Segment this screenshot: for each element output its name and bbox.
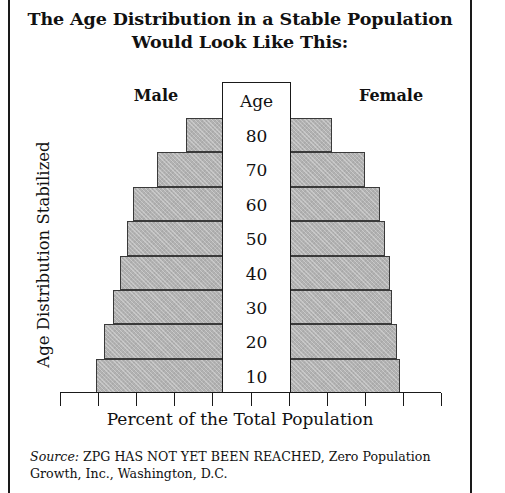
male-bar-age-70 <box>157 152 224 186</box>
age-column-title: Age <box>223 83 290 119</box>
chart-title: The Age Distribution in a Stable Populat… <box>8 8 472 54</box>
x-axis-tick <box>327 393 328 406</box>
x-axis-tick <box>251 393 252 406</box>
female-bar-age-80 <box>289 118 332 152</box>
chart-title-line-2: Would Look Like This: <box>8 31 472 54</box>
male-column-header: Male <box>110 86 202 105</box>
male-bar-age-50 <box>127 221 224 255</box>
age-column: Age 8070605040302010 <box>222 82 291 393</box>
female-bar-age-70 <box>289 152 365 186</box>
x-axis-tick <box>289 393 290 406</box>
age-label-10: 10 <box>223 360 290 394</box>
male-bar-age-40 <box>120 256 224 290</box>
x-axis-tick <box>441 393 442 406</box>
chart-title-line-1: The Age Distribution in a Stable Populat… <box>8 8 472 31</box>
female-bar-age-20 <box>289 324 397 358</box>
male-bar-age-80 <box>186 118 224 152</box>
female-bar-age-30 <box>289 290 392 324</box>
x-axis-tick <box>98 393 99 406</box>
female-bar-age-40 <box>289 256 390 290</box>
source-citation: Source: ZPG HAS NOT YET BEEN REACHED, Ze… <box>30 449 450 482</box>
female-bar-age-10 <box>289 359 400 393</box>
age-label-20: 20 <box>223 325 290 359</box>
x-axis-tick <box>60 393 61 406</box>
age-label-50: 50 <box>223 222 290 256</box>
x-axis-tick <box>136 393 137 406</box>
x-axis-tick <box>403 393 404 406</box>
female-column-header: Female <box>338 86 444 105</box>
age-label-30: 30 <box>223 291 290 325</box>
x-axis-tick <box>174 393 175 406</box>
age-label-70: 70 <box>223 153 290 187</box>
x-axis-tick <box>212 393 213 406</box>
x-axis-label: Percent of the Total Population <box>8 409 472 429</box>
female-bar-age-50 <box>289 221 385 255</box>
age-label-60: 60 <box>223 188 290 222</box>
female-bar-age-60 <box>289 187 380 221</box>
male-bar-age-30 <box>113 290 224 324</box>
male-bar-age-60 <box>133 187 224 221</box>
male-bar-age-10 <box>96 359 224 393</box>
age-label-40: 40 <box>223 257 290 291</box>
male-bar-age-20 <box>104 324 224 358</box>
source-text: ZPG HAS NOT YET BEEN REACHED, Zero Popul… <box>30 449 431 481</box>
x-axis-tick <box>365 393 366 406</box>
x-axis-ticks <box>60 393 441 406</box>
age-label-80: 80 <box>223 119 290 153</box>
source-prefix: Source: <box>30 449 79 464</box>
